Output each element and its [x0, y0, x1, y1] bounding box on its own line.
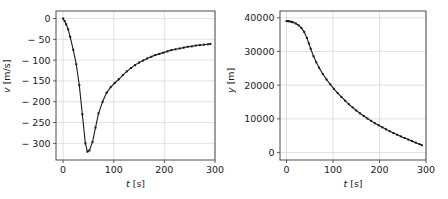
- data-point-marker: [75, 63, 77, 65]
- data-point-marker: [86, 151, 88, 153]
- data-point-marker: [337, 92, 339, 94]
- data-point-marker: [378, 124, 380, 126]
- data-point-marker: [67, 28, 69, 30]
- data-point-marker: [288, 20, 290, 22]
- data-point-marker: [78, 84, 80, 86]
- y-axis-unit: [m]: [225, 67, 236, 84]
- data-point-marker: [366, 118, 368, 120]
- x-tick-label: 200: [155, 164, 173, 175]
- data-point-marker: [411, 140, 413, 142]
- data-point-marker: [64, 20, 66, 22]
- data-point-marker: [385, 128, 387, 130]
- data-point-marker: [312, 55, 314, 57]
- data-point-marker: [134, 64, 136, 66]
- velocity-x-axis-label: t [s]: [96, 178, 176, 189]
- x-tick-label: 300: [417, 164, 435, 175]
- y-tick-label: 20000: [244, 80, 274, 91]
- x-axis-unit: [s]: [133, 178, 145, 189]
- data-point-marker: [122, 74, 124, 76]
- axis-ticks: 0100002000030000400000100200300: [244, 12, 435, 175]
- data-point-marker: [203, 44, 205, 46]
- data-point-marker: [315, 61, 317, 63]
- y-tick-label: 10000: [244, 113, 274, 124]
- data-point-marker: [355, 109, 357, 111]
- data-point-marker: [352, 106, 354, 108]
- data-point-marker: [404, 137, 406, 139]
- y-axis-unit: [m/s]: [1, 59, 12, 84]
- data-point-markers: [286, 20, 423, 146]
- data-point-marker: [400, 135, 402, 137]
- data-point-marker: [183, 47, 185, 49]
- data-point-marker: [187, 46, 189, 48]
- data-point-marker: [359, 112, 361, 114]
- velocity-axes: 0− 50− 100− 150− 200− 250− 3000100200300: [0, 0, 224, 199]
- y-tick-label: − 250: [21, 117, 50, 128]
- data-point-marker: [308, 42, 310, 44]
- data-point-marker: [298, 24, 300, 26]
- data-point-marker: [106, 92, 108, 94]
- y-tick-label: 40000: [244, 12, 274, 23]
- data-point-marker: [310, 48, 312, 50]
- y-axis-variable: y: [225, 87, 236, 93]
- data-point-marker: [130, 67, 132, 69]
- data-point-marker: [81, 113, 83, 115]
- data-point-marker: [69, 36, 71, 38]
- velocity-y-axis-label: v [m/s]: [0, 79, 14, 93]
- data-point-marker: [88, 149, 90, 151]
- data-point-marker: [348, 103, 350, 105]
- data-point-marker: [363, 115, 365, 117]
- data-point-marker: [72, 49, 74, 51]
- data-point-marker: [114, 82, 116, 84]
- data-point-marker: [102, 101, 104, 103]
- x-tick-label: 100: [324, 164, 342, 175]
- data-point-marker: [84, 142, 86, 144]
- data-point-marker: [166, 50, 168, 52]
- data-point-marker: [421, 144, 423, 146]
- altitude-axes: 0100002000030000400000100200300: [224, 0, 448, 199]
- data-point-marker: [322, 73, 324, 75]
- data-point-marker: [118, 78, 120, 80]
- data-point-marker: [179, 47, 181, 49]
- data-point-marker: [62, 17, 64, 19]
- data-point-marker: [146, 57, 148, 59]
- y-tick-label: − 50: [27, 34, 50, 45]
- data-point-marker: [290, 21, 292, 23]
- y-tick-label: 30000: [244, 46, 274, 57]
- data-point-marker: [303, 31, 305, 33]
- axis-ticks: 0− 50− 100− 150− 200− 250− 3000100200300: [21, 13, 224, 175]
- data-point-marker: [300, 27, 302, 29]
- altitude-y-axis-label: y [m]: [224, 79, 238, 93]
- figure-container: 0− 50− 100− 150− 200− 250− 3000100200300…: [0, 0, 448, 199]
- data-point-marker: [95, 127, 97, 129]
- data-point-marker: [418, 143, 420, 145]
- data-point-marker: [344, 100, 346, 102]
- x-tick-label: 100: [105, 164, 123, 175]
- data-series-line: [63, 18, 210, 151]
- y-tick-label: − 200: [21, 96, 50, 107]
- data-point-marker: [191, 45, 193, 47]
- data-point-marker: [126, 70, 128, 72]
- data-point-marker: [292, 21, 294, 23]
- data-point-marker: [407, 139, 409, 141]
- data-point-marker: [162, 52, 164, 54]
- data-point-marker: [142, 60, 144, 62]
- y-tick-label: − 150: [21, 75, 50, 86]
- data-point-marker: [150, 56, 152, 58]
- y-tick-label: 0: [268, 147, 274, 158]
- data-point-marker: [98, 112, 100, 114]
- y-tick-label: 0: [44, 13, 50, 24]
- data-point-marker: [306, 37, 308, 39]
- data-point-marker: [392, 132, 394, 134]
- altitude-x-axis-label: t [s]: [313, 178, 393, 189]
- data-series-line: [287, 21, 422, 145]
- data-point-marker: [207, 43, 209, 45]
- data-point-marker: [329, 83, 331, 85]
- data-point-marker: [381, 126, 383, 128]
- data-point-marker: [154, 54, 156, 56]
- x-tick-label: 0: [60, 164, 66, 175]
- data-point-marker: [415, 142, 417, 144]
- y-tick-label: − 300: [21, 138, 50, 149]
- data-point-marker: [209, 43, 211, 45]
- data-point-marker: [110, 86, 112, 88]
- data-point-marker: [340, 96, 342, 98]
